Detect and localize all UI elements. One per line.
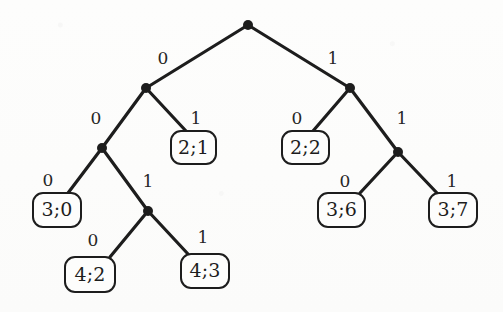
leaf-node-l110: 3;6 — [317, 192, 366, 228]
tree-edge-n001-l0011 — [148, 211, 188, 254]
node-001 — [143, 206, 153, 216]
tree-edge-n001-l0010 — [110, 211, 148, 257]
edge-label-n001-l0010: 0 — [88, 232, 99, 249]
leaf-label-l10: 2;2 — [290, 136, 321, 158]
edge-label-n1-n11: 1 — [397, 110, 408, 127]
node-0 — [141, 83, 151, 93]
edge-label-n1-l10: 0 — [292, 110, 303, 127]
edge-label-n0-l01: 1 — [191, 110, 202, 127]
tree-edge-n1-l10 — [313, 88, 350, 131]
edge-label-n0-n00: 0 — [91, 110, 102, 127]
tree-edge-n11-l111 — [398, 152, 437, 193]
edge-label-n00-l000: 0 — [43, 172, 54, 189]
node-00 — [97, 143, 107, 153]
leaf-label-l110: 3;6 — [326, 198, 357, 220]
leaf-node-l10: 2;2 — [281, 130, 330, 165]
leaf-node-l01: 2;1 — [170, 130, 217, 165]
tree-edge-n00-l000 — [68, 148, 102, 193]
edge-label-root-n1: 1 — [328, 50, 339, 67]
edge-label-n00-n001: 1 — [143, 173, 154, 190]
leaf-label-l111: 3;7 — [437, 198, 468, 220]
tree-edge-n11-l110 — [360, 152, 398, 193]
root-node — [243, 20, 253, 30]
edges-group — [68, 25, 437, 257]
node-11 — [393, 147, 403, 157]
leaf-node-l000: 3;0 — [32, 192, 82, 228]
edge-label-n11-l110: 0 — [340, 173, 351, 190]
leaf-node-l111: 3;7 — [428, 192, 478, 228]
edge-label-root-n0: 0 — [158, 50, 169, 67]
edge-label-n11-l111: 1 — [447, 173, 458, 190]
leaf-label-l01: 2;1 — [178, 136, 209, 158]
tree-edge-n0-l01 — [146, 88, 186, 131]
leaf-label-l0010: 4;2 — [74, 263, 105, 285]
leaf-label-l000: 3;0 — [41, 198, 72, 220]
leaf-node-l0011: 4;3 — [180, 253, 230, 289]
tree-edge-n0-n00 — [102, 88, 146, 148]
tree-diagram-canvas: 010101010101 2;12;23;03;63;74;24;3 — [0, 0, 503, 312]
leaf-node-l0010: 4;2 — [64, 256, 116, 293]
tree-edge-n1-n11 — [350, 88, 398, 152]
tree-edge-n00-n001 — [102, 148, 148, 211]
edge-label-n001-l0011: 1 — [198, 229, 209, 246]
node-1 — [345, 83, 355, 93]
leaf-label-l0011: 4;3 — [189, 259, 220, 281]
